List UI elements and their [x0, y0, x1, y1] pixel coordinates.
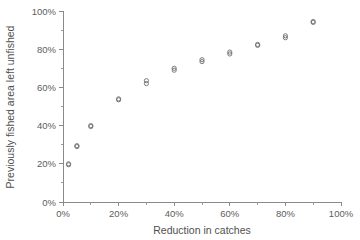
y-axis-title: Previously fished area left unfished	[4, 25, 16, 188]
x-tick-label: 0%	[56, 208, 70, 219]
plot-area: 0%20%40%60%80%100%0%20%40%60%80%100% Red…	[0, 0, 360, 240]
x-tick-label: 80%	[276, 208, 296, 219]
y-tick-label: 60%	[37, 82, 57, 93]
tick-group	[59, 11, 341, 206]
x-tick-label: 20%	[109, 208, 129, 219]
y-tick-label: 0%	[42, 197, 56, 208]
x-tick-label: 100%	[329, 208, 354, 219]
data-point	[144, 81, 148, 85]
scatter-chart: 0%20%40%60%80%100%0%20%40%60%80%100% Red…	[0, 0, 360, 240]
y-tick-label: 40%	[37, 120, 57, 131]
x-tick-label: 60%	[220, 208, 240, 219]
tick-label-group: 0%20%40%60%80%100%0%20%40%60%80%100%	[32, 6, 354, 220]
y-tick-label: 80%	[37, 44, 57, 55]
data-point-group	[66, 19, 315, 166]
x-tick-label: 40%	[165, 208, 185, 219]
x-axis-title: Reduction in catches	[153, 224, 250, 236]
axis-group	[63, 11, 341, 202]
y-tick-label: 20%	[37, 158, 57, 169]
y-tick-label: 100%	[32, 6, 57, 17]
